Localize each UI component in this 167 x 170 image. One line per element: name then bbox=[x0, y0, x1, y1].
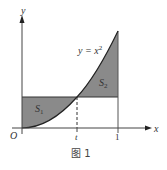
tick-one-label: 1 bbox=[115, 132, 120, 142]
x-axis-label: x bbox=[153, 123, 159, 134]
x-axis-arrow-icon bbox=[145, 126, 152, 131]
region-s1 bbox=[22, 97, 77, 128]
curve-label-exponent: 2 bbox=[99, 44, 103, 52]
curve-label: y = x2 bbox=[77, 44, 103, 56]
region-s2 bbox=[77, 31, 118, 97]
y-axis-label: y bbox=[20, 5, 26, 16]
figure-caption: 图 1 bbox=[71, 148, 91, 159]
diagram: y x O t 1 y = x2 S1 S2 图 1 bbox=[0, 0, 167, 170]
tick-t-label: t bbox=[75, 132, 78, 142]
origin-label: O bbox=[10, 130, 17, 141]
y-axis-arrow-icon bbox=[20, 15, 25, 23]
